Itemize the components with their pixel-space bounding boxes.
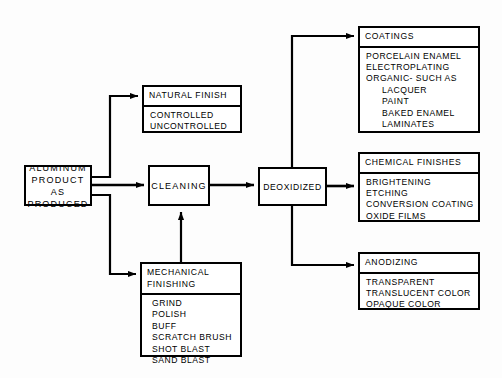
node-coatings-items: PORCELAIN ENAMELELECTROPLATINGORGANIC- S…: [360, 48, 478, 134]
node-mechanical-finishing[interactable]: MECHANICAL FINISHING GRINDPOLISHBUFFSCRA…: [140, 262, 242, 357]
node-deoxidized-label: DEOXIDIZED: [260, 169, 325, 204]
node-anodizing[interactable]: ANODIZING TRANSPARENTTRANSLUCENT COLOROP…: [358, 252, 480, 310]
list-item: TRANSPARENT: [366, 277, 473, 288]
list-item: CONVERSION COATING: [366, 199, 473, 210]
list-item: BRIGHTENING: [366, 177, 473, 188]
node-chemical-finishes-items: BRIGHTENINGETCHINGCONVERSION COATINGOXID…: [360, 174, 478, 226]
list-item: GRIND: [152, 298, 235, 309]
node-aluminum-product[interactable]: ALUMINUM PRODUCT AS PRODUCED: [24, 165, 92, 206]
node-natural-finish-header: NATURAL FINISH: [144, 87, 240, 107]
node-coatings[interactable]: COATINGS PORCELAIN ENAMELELECTROPLATINGO…: [358, 26, 480, 133]
flowchart-canvas: ALUMINUM PRODUCT AS PRODUCED CLEANING DE…: [0, 0, 502, 378]
node-aluminum-product-label: ALUMINUM PRODUCT AS PRODUCED: [26, 167, 90, 204]
list-item: TRANSLUCENT COLOR: [366, 288, 473, 299]
node-cleaning[interactable]: CLEANING: [148, 165, 210, 206]
list-item: LACQUER: [366, 85, 473, 96]
list-item: OXIDE FILMS: [366, 211, 473, 222]
list-item: SAND BLAST: [152, 355, 235, 366]
list-item: CONTROLLED: [150, 110, 235, 121]
list-item: ETCHING: [366, 188, 473, 199]
node-mechanical-finishing-items: GRINDPOLISHBUFFSCRATCH BRUSHSHOT BLASTSA…: [142, 295, 240, 369]
node-anodizing-header: ANODIZING: [360, 254, 478, 274]
list-item: ORGANIC- SUCH AS: [366, 73, 473, 84]
list-item: LAMINATES: [366, 119, 473, 130]
node-deoxidized[interactable]: DEOXIDIZED: [258, 167, 327, 206]
node-chemical-finishes[interactable]: CHEMICAL FINISHES BRIGHTENINGETCHINGCONV…: [358, 152, 480, 222]
list-item: BAKED ENAMEL: [366, 108, 473, 119]
connector-aluminum-to-natural-finish: [92, 96, 138, 177]
list-item: POLISH: [152, 309, 235, 320]
node-chemical-finishes-header: CHEMICAL FINISHES: [360, 154, 478, 174]
node-mechanical-finishing-header: MECHANICAL FINISHING: [142, 264, 240, 295]
node-natural-finish[interactable]: NATURAL FINISH CONTROLLEDUNCONTROLLED: [142, 85, 242, 133]
list-item: SCRATCH BRUSH: [152, 332, 235, 343]
connector-deoxidized-to-coatings: [292, 36, 354, 167]
node-cleaning-label: CLEANING: [150, 167, 208, 204]
list-item: BUFF: [152, 321, 235, 332]
list-item: OPAQUE COLOR: [366, 299, 473, 310]
connector-deoxidized-to-anodizing: [292, 206, 354, 265]
list-item: ELECTROPLATING: [366, 62, 473, 73]
connector-aluminum-to-mechanical-finishing: [92, 195, 136, 274]
list-item: PORCELAIN ENAMEL: [366, 51, 473, 62]
list-item: UNCONTROLLED: [150, 121, 235, 132]
list-item: PAINT: [366, 96, 473, 107]
list-item: SHOT BLAST: [152, 344, 235, 355]
node-natural-finish-items: CONTROLLEDUNCONTROLLED: [144, 107, 240, 136]
node-coatings-header: COATINGS: [360, 28, 478, 48]
node-anodizing-items: TRANSPARENTTRANSLUCENT COLOROPAQUE COLOR: [360, 274, 478, 314]
